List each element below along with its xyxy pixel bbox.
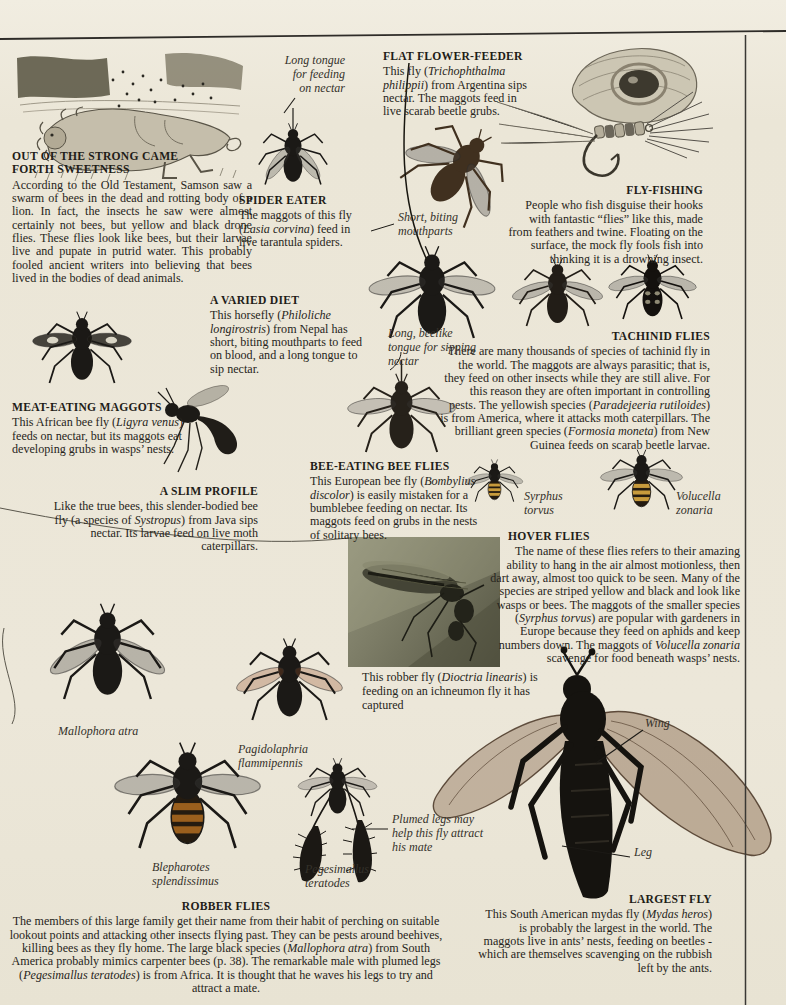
plumed-legs-label: Plumed legs may help this fly attract hi…	[392, 812, 497, 854]
book-page: OUT OF THE STRONG CAME FORTH SWEETNESS A…	[0, 0, 786, 1005]
long-tongue-label: Long tongue for feeding on nectar	[253, 53, 345, 95]
flat-flower-feeder-heading: FLAT FLOWER-FEEDER	[383, 50, 543, 63]
meat-eating-maggots-heading: MEAT-EATING MAGGOTS	[12, 401, 190, 414]
bee-eating-bee-flies-section: BEE-EATING BEE FLIES This European bee f…	[310, 460, 480, 542]
volucella-zonaria-label: Volucella zonaria	[676, 489, 742, 517]
largest-fly-body: This South American mydas fly (Mydas her…	[478, 908, 712, 974]
short-mouthparts-label: Short, biting mouthparts	[398, 210, 493, 238]
meat-eating-maggots-section: MEAT-EATING MAGGOTS This African bee fly…	[12, 401, 190, 456]
pagidolaphria-label: Pagidolaphria flammipennis	[238, 742, 343, 770]
slim-profile-section: A SLIM PROFILE Like the true bees, this …	[40, 485, 258, 554]
hover-flies-body: The name of these flies refers to their …	[487, 545, 740, 665]
samson-section: OUT OF THE STRONG CAME FORTH SWEETNESS A…	[12, 150, 252, 285]
beelike-tongue-label: Long, beelike tongue for sipping nectar	[388, 326, 488, 368]
robber-flies-section: ROBBER FLIES The members of this large f…	[5, 900, 447, 995]
syrphus-torvus-label: Syrphus torvus	[524, 489, 582, 517]
spider-eater-section: SPIDER EATER The maggots of this fly (La…	[239, 194, 361, 249]
mallophora-atra-fly-photo	[10, 587, 205, 727]
samson-body: According to the Old Testament, Samson s…	[12, 179, 252, 285]
varied-diet-section: A VARIED DIET This horsefly (Philoliche …	[210, 294, 372, 376]
blepharotes-label: Blepharotes splendissimus	[152, 860, 272, 888]
samson-heading: OUT OF THE STRONG CAME FORTH SWEETNESS	[12, 150, 252, 177]
largest-fly-section: LARGEST FLY This South American mydas fl…	[478, 893, 712, 975]
spider-eater-heading: SPIDER EATER	[239, 194, 361, 207]
robber-fly-photo-caption: This robber fly (Dioctria linearis) is f…	[362, 671, 540, 713]
slim-profile-heading: A SLIM PROFILE	[40, 485, 258, 498]
hover-flies-section: HOVER FLIES The name of these flies refe…	[487, 530, 740, 665]
pegesimallus-label: Pegesimallus teratodes	[305, 862, 405, 890]
fly-fishing-body: People who fish disguise their hooks wit…	[505, 199, 703, 265]
leg-label: Leg	[634, 845, 666, 859]
meat-eating-maggots-body: This African bee fly (Ligyra venus) feed…	[12, 416, 190, 456]
bee-eating-bee-flies-heading: BEE-EATING BEE FLIES	[310, 460, 480, 473]
robber-flies-body: The members of this large family get the…	[5, 915, 447, 995]
ligyra-venus-fly-photo	[0, 299, 167, 404]
fly-fishing-section: FLY-FISHING People who fish disguise the…	[505, 184, 703, 266]
hover-flies-heading: HOVER FLIES	[487, 530, 740, 543]
varied-diet-body: This horsefly (Philoliche longirostris) …	[210, 309, 372, 375]
largest-fly-heading: LARGEST FLY	[478, 893, 712, 906]
mallophora-atra-label: Mallophora atra	[58, 724, 173, 738]
slim-profile-body: Like the true bees, this slender-bodied …	[40, 500, 258, 553]
flat-flower-feeder-body: This fly (Trichophthalma philippii) from…	[383, 65, 533, 118]
varied-diet-heading: A VARIED DIET	[210, 294, 372, 307]
fly-fishing-heading: FLY-FISHING	[505, 184, 703, 197]
spider-eater-body: The maggots of this fly (Lasia corvina) …	[239, 209, 361, 249]
flat-flower-feeder-section: FLAT FLOWER-FEEDER This fly (Trichophtha…	[383, 50, 543, 119]
wing-label: Wing	[645, 716, 687, 730]
bee-eating-bee-flies-body: This European bee fly (Bombylius discolo…	[310, 475, 480, 541]
robber-flies-heading: ROBBER FLIES	[5, 900, 447, 913]
